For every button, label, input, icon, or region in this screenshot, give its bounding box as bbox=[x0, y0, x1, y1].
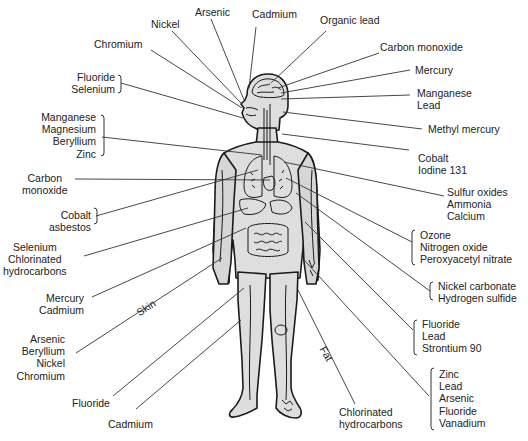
label-ozone-group: Ozone Nitrogen oxide Peroxyacetyl nitrat… bbox=[420, 229, 512, 266]
label-fluoride-selenium: Fluoride Selenium bbox=[67, 71, 115, 95]
label-manganese-group: Manganese Magnesium Beryllium Zinc bbox=[36, 111, 96, 160]
label-methyl-mercury: Methyl mercury bbox=[428, 123, 500, 135]
label-cadmium-bottom: Cadmium bbox=[108, 418, 153, 430]
toxicology-body-diagram: Nickel Arsenic Cadmium Organic lead Chro… bbox=[0, 0, 528, 441]
label-fluoride-bottom: Fluoride bbox=[72, 397, 110, 409]
label-nickel: Nickel bbox=[151, 18, 180, 30]
label-mercury-cadmium: Mercury Cadmium bbox=[38, 292, 84, 316]
label-cadmium-top: Cadmium bbox=[252, 8, 297, 20]
label-cobalt-asbestos: Cobalt asbestos bbox=[44, 209, 91, 233]
label-carbon-monoxide-top: Carbon monoxide bbox=[380, 41, 463, 53]
label-chlorinated-bottom: Chlorinated hydrocarbons bbox=[339, 406, 403, 430]
label-arsenic-top: Arsenic bbox=[195, 6, 230, 18]
label-arsenic-group: Arsenic Beryllium Nickel Chromium bbox=[13, 333, 65, 382]
label-fluoride-lead-strontium: Fluoride Lead Strontium 90 bbox=[422, 318, 482, 355]
label-sulfur-group: Sulfur oxides Ammonia Calcium bbox=[447, 186, 508, 223]
label-zinc-group: Zinc Lead Arsenic Fluoride Vanadium bbox=[439, 368, 486, 429]
label-cobalt-iodine: Cobalt Iodine 131 bbox=[418, 152, 467, 176]
label-chromium: Chromium bbox=[94, 38, 142, 50]
label-carbon-monoxide-left: Carbon monoxide bbox=[22, 172, 68, 196]
label-manganese-lead: Manganese Lead bbox=[417, 87, 472, 111]
label-organic-lead: Organic lead bbox=[320, 14, 380, 26]
label-nickel-carbonate-group: Nickel carbonate Hydrogen sulfide bbox=[438, 280, 517, 304]
label-selenium-chlorinated: Selenium Chlorinated hydrocarbons bbox=[3, 241, 67, 278]
label-mercury-top: Mercury bbox=[415, 64, 453, 76]
